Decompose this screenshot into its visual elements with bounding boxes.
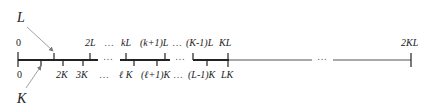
bottom-ellipsis-1: …	[99, 70, 109, 80]
top-label-KL: KL	[219, 38, 231, 48]
top-label-k-plus-1-L: (k+1)L	[140, 38, 168, 48]
bottom-label-LK: LK	[221, 70, 233, 80]
L-pointer-arrow	[27, 27, 53, 51]
bottom-label-lK: ℓ K	[119, 70, 132, 80]
line-ellipsis-1: …	[103, 52, 113, 62]
bottom-label-2K: 2K	[56, 70, 68, 80]
bottom-label-l-plus-1-K: (ℓ+1)K	[141, 70, 170, 80]
K-pointer-label: K	[17, 92, 26, 106]
bottom-label-0: 0	[17, 70, 22, 80]
L-pointer-label: L	[17, 11, 25, 25]
bottom-label-3K: 3K	[76, 70, 88, 80]
top-ellipsis-2: …	[172, 38, 182, 48]
line-ellipsis-3: …	[317, 52, 327, 62]
top-label-2KL: 2KL	[401, 38, 418, 48]
top-label-0: 0	[16, 38, 21, 48]
top-label-2L: 2L	[85, 38, 96, 48]
bottom-label-L-minus-1-K: (L-1)K	[188, 70, 215, 80]
line-ellipsis-2: …	[175, 52, 185, 62]
top-ellipsis-1: …	[104, 38, 114, 48]
bottom-ellipsis-2: …	[173, 70, 183, 80]
top-label-K-minus-1-L: (K-1)L	[186, 38, 213, 48]
K-pointer-arrow	[26, 66, 41, 88]
number-line-diagram	[0, 0, 439, 107]
top-label-kL: kL	[121, 38, 131, 48]
